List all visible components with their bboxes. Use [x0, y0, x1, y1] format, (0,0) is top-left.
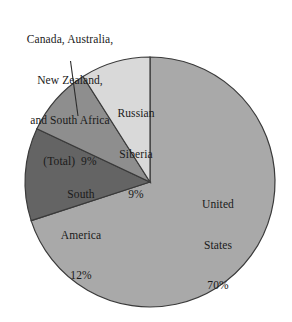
slice-label-south-america: South America 12%	[42, 161, 120, 310]
united-states-value: 70%	[182, 279, 254, 293]
south-america-label-line-1: South	[42, 188, 120, 202]
south-america-value: 12%	[42, 269, 120, 283]
slice-label-united-states: United States 70%	[182, 171, 254, 320]
united-states-label-line-1: United	[182, 198, 254, 212]
south-america-label-line-2: America	[42, 229, 120, 243]
pie-chart-figure: Canada, Australia, New Zealand, and Sout…	[0, 0, 292, 322]
russian-siberia-label-line-1: Russian	[100, 107, 172, 121]
callout-label-line-1: Canada, Australia,	[0, 33, 140, 47]
russian-siberia-label-line-2: Siberia	[100, 148, 172, 162]
united-states-label-line-2: States	[182, 239, 254, 253]
